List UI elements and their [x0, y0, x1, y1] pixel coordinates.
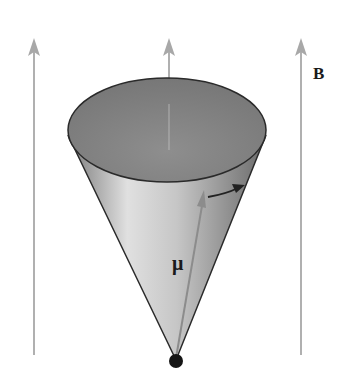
moment-label-mu: μ — [172, 252, 183, 275]
field-arrow-right — [295, 38, 307, 355]
precession-diagram — [0, 0, 341, 392]
cone-cap — [68, 78, 266, 182]
field-arrow-left — [28, 38, 40, 355]
field-label-B: B — [313, 64, 324, 84]
apex-dot — [169, 354, 183, 368]
